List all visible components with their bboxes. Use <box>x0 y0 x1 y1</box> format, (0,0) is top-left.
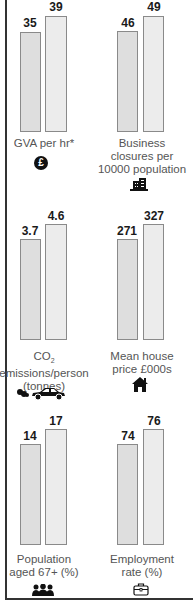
value-label: 39 <box>41 0 71 14</box>
value-label: 74 <box>113 429 143 443</box>
value-label: 49 <box>139 0 169 14</box>
value-label: 76 <box>139 414 169 428</box>
value-label: 17 <box>41 414 71 428</box>
value-label: 46 <box>113 16 143 30</box>
bar <box>45 16 67 132</box>
house-icon <box>131 376 149 392</box>
axis-label: Population aged 67+ (%) <box>0 553 92 579</box>
bar <box>45 429 67 545</box>
value-label: 35 <box>15 16 45 30</box>
bar <box>117 444 138 545</box>
axis-label: GVA per hr* <box>0 137 92 150</box>
briefcase-icon <box>133 582 149 596</box>
value-label: 327 <box>139 209 169 223</box>
bar <box>117 31 138 132</box>
car-exhaust-icon <box>16 386 66 400</box>
value-label: 4.6 <box>41 209 71 223</box>
bar <box>20 239 41 340</box>
bar <box>117 239 138 340</box>
value-label: 271 <box>112 224 142 238</box>
bar <box>20 444 41 545</box>
bar <box>143 16 164 132</box>
bar <box>45 224 67 340</box>
axis-label: Business closures per 10000 population <box>94 137 190 176</box>
pound-icon: £ <box>34 156 48 170</box>
people-icon <box>32 584 54 596</box>
building-icon <box>130 177 148 191</box>
bar <box>20 32 41 132</box>
value-label: 14 <box>15 429 45 443</box>
bar <box>143 224 164 340</box>
value-label: 3.7 <box>15 224 45 238</box>
bar <box>143 429 164 545</box>
axis-label: Employment rate (%) <box>94 553 190 579</box>
axis-label: Mean house price £000s <box>94 350 190 376</box>
